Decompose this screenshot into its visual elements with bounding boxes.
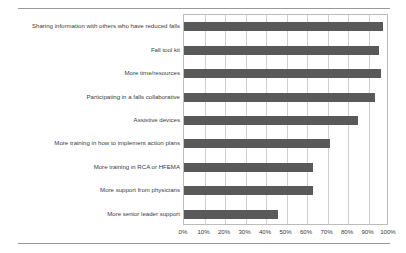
- value-axis-tick-label: 30%: [238, 227, 250, 236]
- category-label: Fall tool kit: [0, 46, 180, 54]
- plot-area: [183, 14, 388, 225]
- bar: [184, 93, 375, 102]
- bar-series: [184, 15, 387, 224]
- category-label: More support from physicians: [0, 186, 180, 194]
- category-label: Participating in a falls collaborative: [0, 93, 180, 101]
- value-axis-tick-label: 20%: [218, 227, 230, 236]
- value-axis-tick-label: 70%: [320, 227, 332, 236]
- value-axis-tick-label: 40%: [259, 227, 271, 236]
- bar-row: [184, 46, 387, 55]
- bar-row: [184, 186, 387, 195]
- bar: [184, 139, 330, 148]
- bar: [184, 46, 379, 55]
- value-axis-tick-label: 10%: [197, 227, 209, 236]
- bar: [184, 210, 278, 219]
- bar: [184, 22, 383, 31]
- bar: [184, 69, 381, 78]
- category-label: Assistive devices: [0, 116, 180, 124]
- category-label: More senior leader support: [0, 210, 180, 218]
- chart-figure: Sharing information with others who have…: [0, 0, 406, 253]
- value-axis-tick-label: 100%: [380, 227, 396, 236]
- category-label: Sharing information with others who have…: [0, 22, 180, 30]
- chart-plot-wrapper: Sharing information with others who have…: [0, 14, 406, 239]
- category-label: More time/resources: [0, 69, 180, 77]
- value-axis-tick-label: 80%: [341, 227, 353, 236]
- value-axis-tick-label: 90%: [361, 227, 373, 236]
- bar-row: [184, 116, 387, 125]
- bar-row: [184, 139, 387, 148]
- bar: [184, 163, 313, 172]
- bar: [184, 186, 313, 195]
- bar-row: [184, 22, 387, 31]
- value-axis-tick-label: 50%: [279, 227, 291, 236]
- category-label: More training in how to implement action…: [0, 139, 180, 147]
- bottom-divider-rule: [18, 243, 390, 244]
- bar-row: [184, 69, 387, 78]
- bar-row: [184, 163, 387, 172]
- value-axis-tick-label: 0%: [179, 227, 188, 236]
- category-label: More training in RCA or HFEMA: [0, 163, 180, 171]
- value-axis-tick-labels: 0%10%20%30%40%50%60%70%80%90%100%: [183, 227, 388, 239]
- bar-row: [184, 93, 387, 102]
- category-axis-labels: Sharing information with others who have…: [0, 14, 180, 225]
- value-axis-tick-label: 60%: [300, 227, 312, 236]
- bar-row: [184, 210, 387, 219]
- bar: [184, 116, 358, 125]
- top-divider-rule: [18, 8, 390, 9]
